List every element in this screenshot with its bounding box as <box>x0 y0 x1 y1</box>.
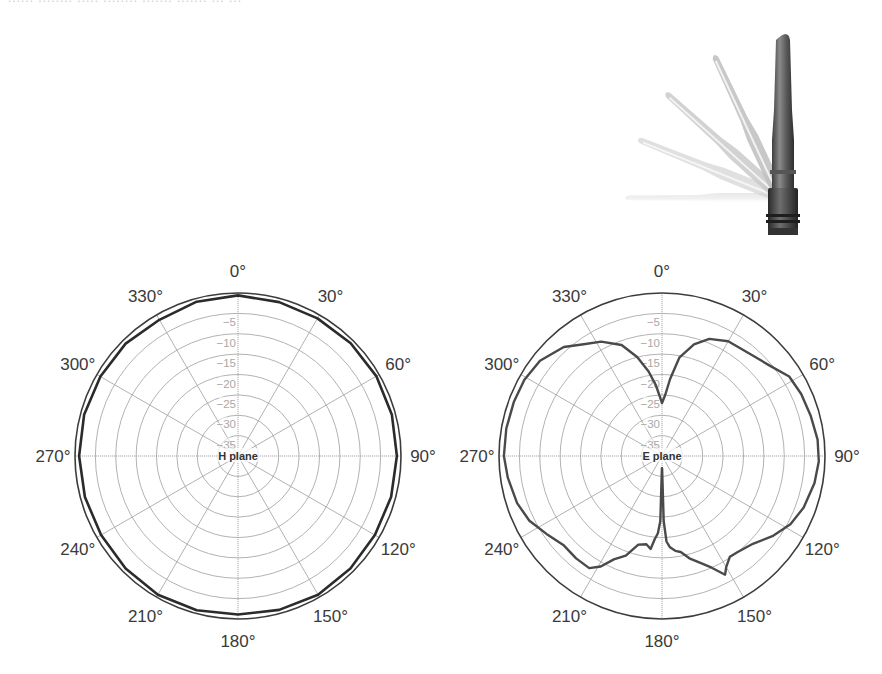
e-plane-angle-label: 270° <box>459 447 494 466</box>
e-plane-ring-label: −25 <box>640 398 660 410</box>
e-plane-angle-label: 240° <box>484 540 519 559</box>
e-plane-center-label: E plane <box>642 450 681 462</box>
e-plane-ring-label: −10 <box>640 337 660 349</box>
e-plane-angle-label: 30° <box>742 287 768 306</box>
e-plane-angle-label: 90° <box>834 447 860 466</box>
e-plane-angle-label: 120° <box>805 540 840 559</box>
e-plane-angle-label: 0° <box>654 262 670 281</box>
e-plane-chart: −5−10−15−20−25−30−350°30°60°90°120°150°1… <box>0 0 882 674</box>
e-plane-angle-label: 150° <box>737 607 772 626</box>
e-plane-angle-label: 60° <box>809 355 835 374</box>
e-plane-angle-label: 300° <box>484 355 519 374</box>
e-plane-ring-label: −30 <box>640 418 660 430</box>
e-plane-angle-label: 330° <box>552 287 587 306</box>
e-plane-angle-label: 210° <box>552 607 587 626</box>
e-plane-ring-label: −5 <box>647 316 660 328</box>
e-plane-angle-label: 180° <box>644 632 679 651</box>
